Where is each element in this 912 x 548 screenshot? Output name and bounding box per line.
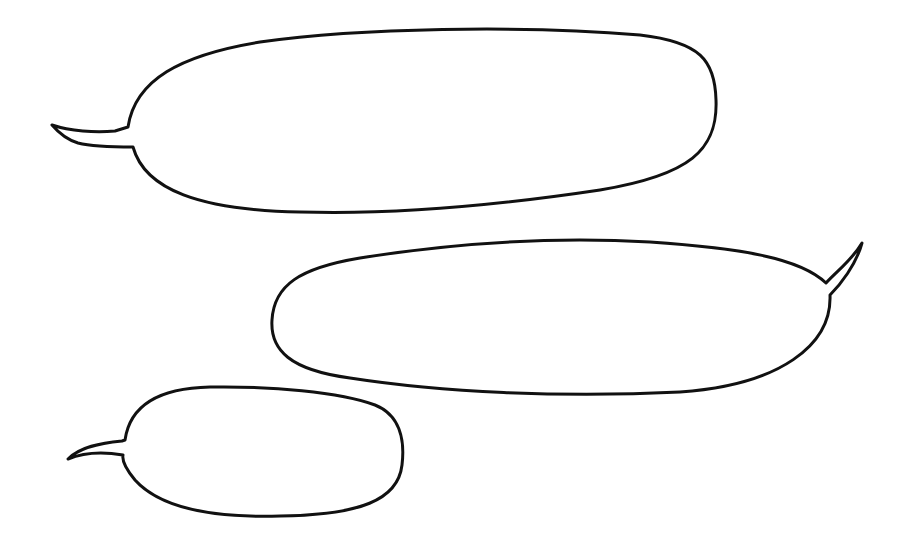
speech-bubble-middle — [272, 240, 862, 394]
speech-bubble-bottom — [68, 387, 403, 516]
speech-bubble-top — [52, 29, 716, 212]
speech-bubbles-canvas — [0, 0, 912, 548]
